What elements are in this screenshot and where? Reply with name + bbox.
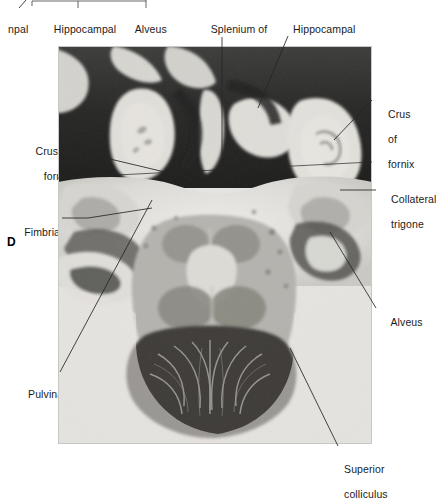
section-photograph [58,46,372,444]
label-line: Crus [388,108,411,120]
leader-hippocampal-truncated [19,0,26,8]
label-crus-of-fornix-right: Crus of fornix [376,95,414,183]
label-line: Hippocampal [54,23,116,35]
label-line: Hippocampal [293,23,355,35]
label-line: fornix [388,158,414,170]
label-collateral-trigone: Collateral trigone [379,180,436,243]
label-line: Alveus [135,23,167,35]
panel-letter-d: D [7,235,16,249]
label-superior-colliculus: Superior colliculus [332,450,388,502]
label-line: Fimbria [24,226,60,238]
label-line: npal [8,23,28,35]
label-line: colliculus [344,488,388,500]
label-line: Superior [344,463,385,475]
label-hippocampal-truncated: npal [0,10,28,48]
label-line: trigone [391,218,424,230]
label-line: Collateral [391,193,436,205]
label-line: Alveus [391,316,423,328]
label-alveus-right: Alveus [379,303,423,341]
label-alveus-top: Alveus [120,10,170,48]
label-line: Splenium of [211,23,268,35]
label-line: of [388,133,397,145]
section-photograph-render [58,46,372,444]
